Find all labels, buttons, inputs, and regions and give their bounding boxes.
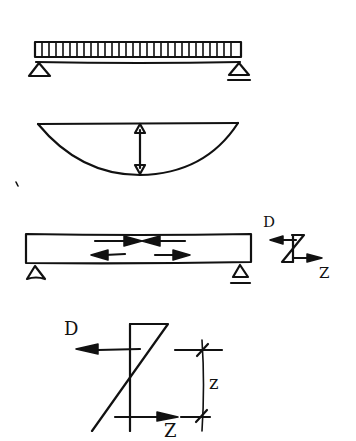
load-hatching (42, 42, 231, 57)
beam-line (36, 62, 240, 63)
pin-support-icon (29, 63, 50, 76)
tension-label-small: Z (319, 266, 329, 281)
arrow-left-icon (142, 236, 160, 246)
beam-body (26, 234, 251, 263)
section-stress-small (270, 235, 322, 262)
section-stress-large (76, 324, 222, 431)
tension-label-large: Z (164, 422, 177, 440)
moment-diagram (38, 123, 238, 175)
moment-baseline (38, 123, 238, 124)
stray-mark (16, 182, 18, 186)
arrow-left-icon (91, 250, 108, 260)
compression-label-small: D (263, 215, 275, 230)
roller-support-icon (229, 63, 249, 75)
moment-parabola (38, 123, 238, 175)
beam-internal-forces (26, 234, 251, 283)
arrow-left-icon (76, 344, 98, 354)
arrow-right-icon (307, 254, 322, 262)
arrow-right-icon (173, 250, 190, 260)
arrow-left-icon (270, 236, 283, 244)
lever-arm-label: z (209, 374, 218, 392)
loaded-beam (29, 42, 250, 80)
compression-arrow-shaft (98, 349, 140, 350)
compression-label-large: D (64, 320, 78, 338)
pin-support-icon (27, 266, 45, 279)
roller-support-icon (233, 265, 248, 277)
arrow-right-icon (124, 236, 142, 246)
dimension-vertical (202, 340, 204, 431)
